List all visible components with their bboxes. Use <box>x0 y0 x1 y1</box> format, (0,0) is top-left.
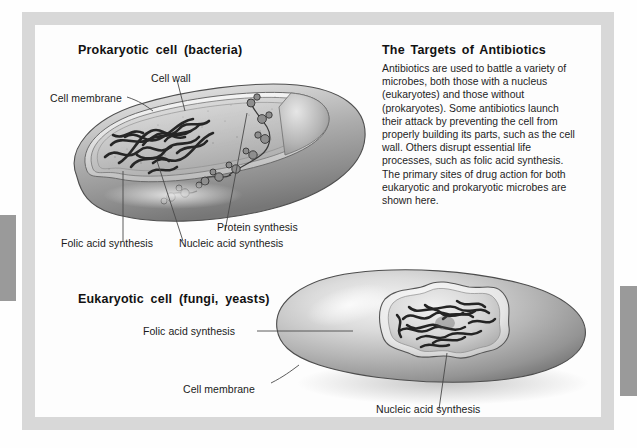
label-eukaryote-cell-membrane: Cell membrane <box>183 383 255 395</box>
label-eukaryote-nucleic-acid-synthesis: Nucleic acid synthesis <box>376 403 480 415</box>
label-prokaryote-folic-acid-synthesis: Folic acid synthesis <box>61 237 153 249</box>
figure-panel: Prokaryotic cell (bacteria) <box>35 25 601 417</box>
body-highlight <box>103 181 243 209</box>
eukaryotic-cell-illustration <box>257 257 601 417</box>
eukaryote-section-title: Eukaryotic cell (fungi, yeasts) <box>78 292 270 306</box>
blurb-heading: The Targets of Antibiotics <box>382 43 578 57</box>
label-prokaryote-protein-synthesis: Protein synthesis <box>217 221 298 233</box>
leader-euk-cell-membrane <box>271 365 299 383</box>
figure-page: Prokaryotic cell (bacteria) <box>0 0 637 448</box>
blurb-body: Antibiotics are used to battle a variety… <box>382 62 578 207</box>
nucleolus <box>435 316 455 330</box>
label-prokaryote-nucleic-acid-synthesis: Nucleic acid synthesis <box>179 237 283 249</box>
label-prokaryote-cell-wall: Cell wall <box>151 72 191 84</box>
label-prokaryote-cell-membrane: Cell membrane <box>50 92 122 104</box>
antibiotics-text-block: The Targets of Antibiotics Antibiotics a… <box>382 43 578 207</box>
left-edge-tab <box>0 215 16 301</box>
right-edge-tab <box>620 286 637 396</box>
figure-frame: Prokaryotic cell (bacteria) <box>22 12 614 430</box>
label-eukaryote-folic-acid-synthesis: Folic acid synthesis <box>143 325 235 337</box>
